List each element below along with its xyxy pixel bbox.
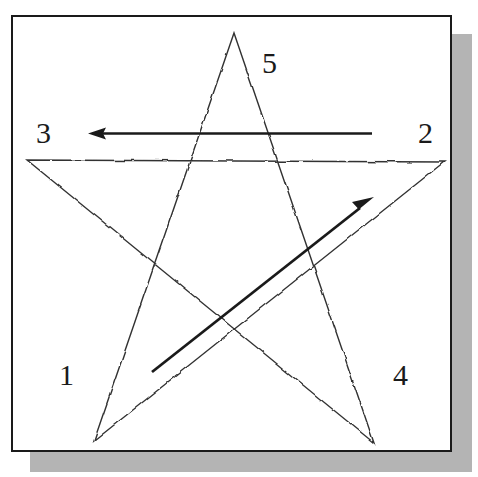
- vertex-label-1: 1: [59, 360, 74, 390]
- star-outline-path: [27, 33, 444, 443]
- vertex-label-2: 2: [418, 118, 433, 148]
- figure-root: 1 2 3 4 5: [0, 0, 478, 477]
- horizontal-direction-arrow: [88, 128, 372, 140]
- vertex-label-3: 3: [36, 118, 51, 148]
- diagonal-arrowhead: [352, 197, 374, 215]
- star-diagram-canvas: [0, 0, 478, 477]
- vertex-label-4: 4: [393, 360, 408, 390]
- vertex-label-5: 5: [262, 48, 277, 78]
